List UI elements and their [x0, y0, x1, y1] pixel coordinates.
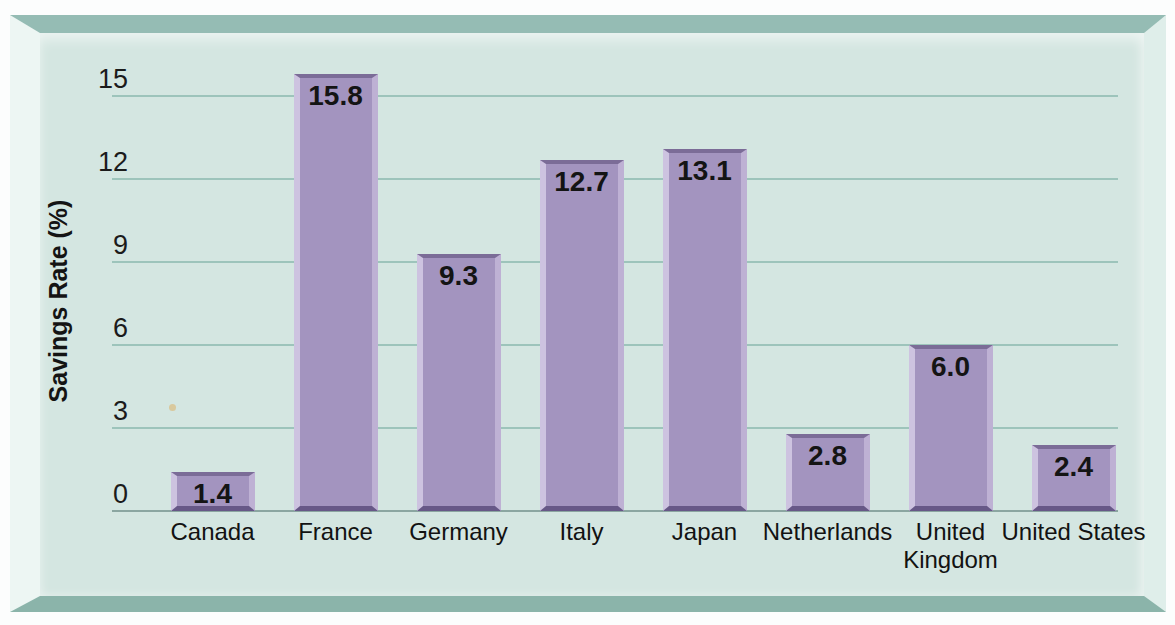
chart-frame [10, 15, 1166, 612]
chart-panel [40, 33, 1144, 596]
chart-page: Savings Rate (%) 036912151.4Canada15.8Fr… [0, 0, 1175, 625]
